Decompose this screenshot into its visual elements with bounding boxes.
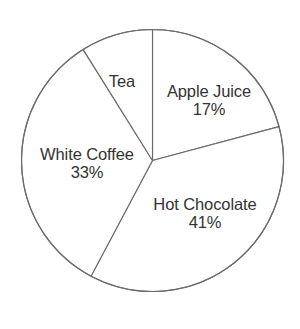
pie-chart: Apple Juice 17% Hot Chocolate 41% White …: [0, 0, 300, 329]
slice-label-white-coffee-value: 33%: [22, 163, 152, 181]
slice-label-tea-name: Tea: [92, 72, 152, 90]
slice-label-apple-juice: Apple Juice 17%: [150, 82, 268, 119]
slice-label-tea: Tea: [92, 72, 152, 90]
slice-label-hot-chocolate: Hot Chocolate 41%: [138, 195, 272, 232]
slice-label-apple-juice-value: 17%: [150, 100, 268, 118]
slice-label-white-coffee-name: White Coffee: [22, 145, 152, 163]
slice-label-hot-chocolate-name: Hot Chocolate: [138, 195, 272, 213]
slice-label-white-coffee: White Coffee 33%: [22, 145, 152, 182]
slice-label-apple-juice-name: Apple Juice: [150, 82, 268, 100]
slice-label-hot-chocolate-value: 41%: [138, 213, 272, 231]
